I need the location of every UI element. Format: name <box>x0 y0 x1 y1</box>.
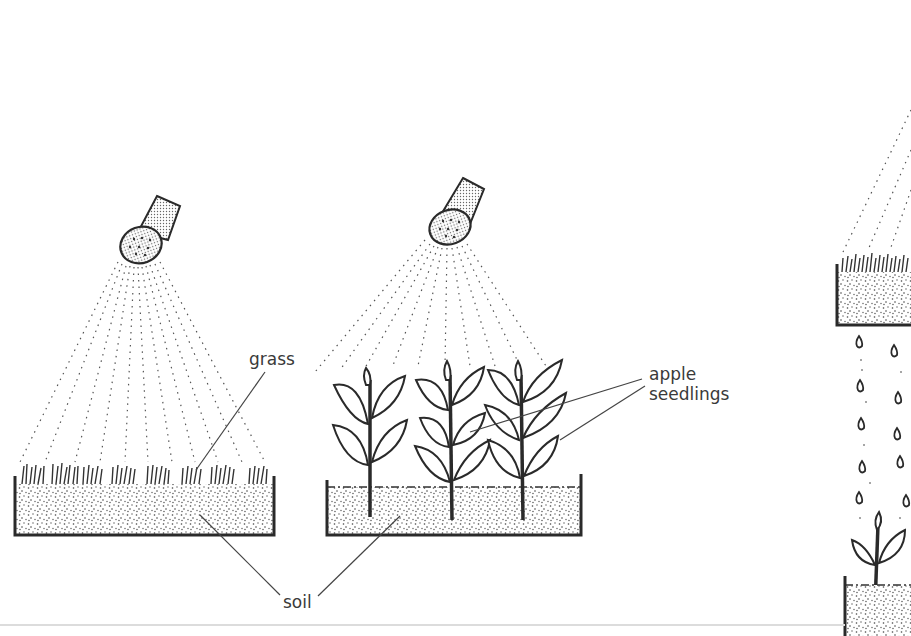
watering-can-rose-icon <box>424 178 484 250</box>
water-drop-icons <box>856 336 909 507</box>
page-divider <box>0 624 845 626</box>
soil-label: soil <box>283 593 312 612</box>
apple-seedlings-label-line2: seedlings <box>649 385 729 404</box>
apple-seedlings-label-line1: apple <box>649 365 696 384</box>
grass-label: grass <box>249 350 295 369</box>
seedling-panel <box>315 178 645 596</box>
grass-blades <box>22 463 267 484</box>
diagram-canvas <box>0 0 911 636</box>
water-spray <box>315 240 546 372</box>
grass-leader-line <box>196 372 265 470</box>
drip-panel-partial <box>837 110 911 636</box>
watering-can-rose-icon <box>115 196 180 269</box>
seedlings-leader-line-2 <box>560 386 645 440</box>
water-spray <box>20 262 265 462</box>
grass-panel <box>15 196 280 595</box>
